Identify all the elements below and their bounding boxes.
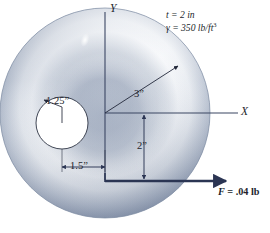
specific-weight-annotation: γ = 350 lb/ft3 [166, 21, 217, 33]
specific-weight-exponent: 3 [213, 21, 216, 28]
x-axis-label: X [241, 105, 248, 118]
force-value: = .04 lb [225, 186, 260, 197]
hole-offset-label: 1.5” [70, 160, 88, 172]
y-axis-label: Y [110, 2, 116, 15]
thickness-annotation: t = 2 in [166, 9, 195, 20]
force-offset-label: 2” [137, 140, 147, 152]
applied-force-label: F = .04 lb [218, 186, 259, 198]
hole-radius-label: 1.25” [46, 95, 69, 107]
outer-radius-label: 3” [134, 88, 144, 100]
specific-weight-text: γ = 350 lb/ft [166, 22, 213, 33]
disc-diagram-canvas [0, 0, 270, 233]
force-symbol: F [218, 186, 225, 197]
